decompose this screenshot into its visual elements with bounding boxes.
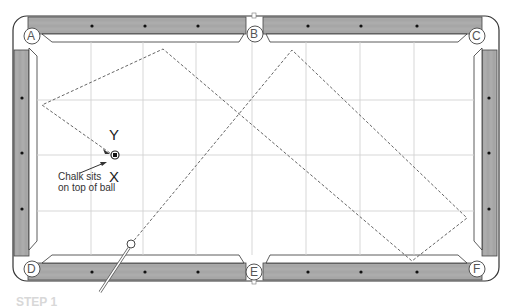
left-cushion xyxy=(29,48,37,250)
pocket-label-c: C xyxy=(472,29,481,43)
callout-line-2: on top of ball xyxy=(58,182,115,193)
pool-table-diagram: A B C D E F Y X Chalk sits on top of bal… xyxy=(0,0,511,306)
marker-y-label: Y xyxy=(109,126,119,143)
table-frame xyxy=(13,16,499,281)
bottom-rail-right xyxy=(263,263,482,280)
top-rail-right xyxy=(263,17,482,34)
top-rail-left xyxy=(28,17,246,34)
right-cushion xyxy=(474,48,482,250)
pocket-label-b: B xyxy=(250,27,258,41)
callout-line-1: Chalk sits xyxy=(58,171,115,182)
object-ball xyxy=(111,151,119,159)
chalk-callout: Chalk sits on top of ball xyxy=(58,171,115,193)
bottom-cushion-right xyxy=(266,255,467,263)
table-svg xyxy=(0,0,511,306)
pocket-label-a: A xyxy=(27,29,35,43)
chalk-icon xyxy=(113,153,117,157)
footer-step-label: STEP 1 xyxy=(16,295,57,306)
bottom-rail-left xyxy=(28,263,246,280)
cue-ball xyxy=(127,240,135,248)
pocket-label-f: F xyxy=(473,262,480,276)
pocket-label-d: D xyxy=(27,262,36,276)
top-cushion-right xyxy=(266,34,467,42)
top-cushion-left xyxy=(42,34,244,42)
pocket-label-e: E xyxy=(250,265,258,279)
bottom-cushion-left xyxy=(42,255,244,263)
